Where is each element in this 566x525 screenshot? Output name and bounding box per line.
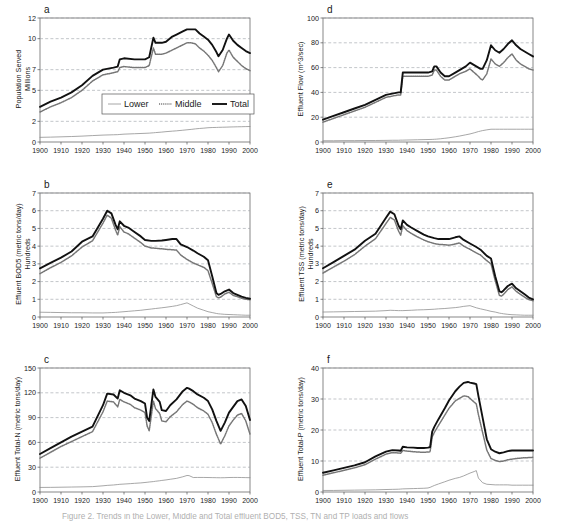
y-axis-label-b: Effluent BOD5 (metric tons/day) xyxy=(14,189,23,319)
svg-text:1900: 1900 xyxy=(32,147,48,154)
svg-text:2: 2 xyxy=(315,277,319,286)
svg-text:0: 0 xyxy=(32,488,36,497)
svg-text:1960: 1960 xyxy=(441,497,457,504)
svg-text:1: 1 xyxy=(32,295,36,304)
svg-text:1980: 1980 xyxy=(483,147,499,154)
svg-text:2: 2 xyxy=(32,277,36,286)
chart-panel-a: aPopulation ServedMillions02571012190019… xyxy=(0,0,283,175)
y-axis-label-e: Effluent TSS (metric tons/day) xyxy=(297,189,306,319)
svg-text:1970: 1970 xyxy=(179,147,195,154)
svg-text:1920: 1920 xyxy=(74,497,90,504)
panel-letter-b: b xyxy=(44,179,50,190)
svg-text:1950: 1950 xyxy=(137,497,153,504)
svg-text:1970: 1970 xyxy=(179,497,195,504)
svg-text:4: 4 xyxy=(315,242,319,251)
svg-text:1900: 1900 xyxy=(315,147,331,154)
svg-text:20: 20 xyxy=(311,426,319,435)
svg-text:1920: 1920 xyxy=(357,322,373,329)
svg-text:80: 80 xyxy=(311,38,319,47)
svg-text:6: 6 xyxy=(315,206,319,215)
svg-text:1970: 1970 xyxy=(179,322,195,329)
svg-text:1900: 1900 xyxy=(32,322,48,329)
svg-text:0: 0 xyxy=(315,313,319,322)
svg-text:0: 0 xyxy=(315,488,319,497)
svg-text:1910: 1910 xyxy=(336,147,352,154)
svg-text:1920: 1920 xyxy=(74,322,90,329)
svg-text:1950: 1950 xyxy=(137,147,153,154)
svg-text:90: 90 xyxy=(28,413,36,422)
svg-text:1970: 1970 xyxy=(462,147,478,154)
svg-text:2000: 2000 xyxy=(525,497,541,504)
svg-text:1960: 1960 xyxy=(158,497,174,504)
plot-area-a: 0257101219001910192019301940195019601970… xyxy=(0,0,283,175)
svg-text:1920: 1920 xyxy=(357,147,373,154)
legend-label-middle: Middle xyxy=(175,99,202,109)
panel-letter-d: d xyxy=(327,4,333,15)
y-axis-label-a: Population Served xyxy=(14,14,23,144)
svg-text:1940: 1940 xyxy=(399,147,415,154)
svg-text:2000: 2000 xyxy=(242,322,258,329)
svg-text:2000: 2000 xyxy=(242,147,258,154)
y-axis-label2-a: Millions xyxy=(23,14,32,144)
svg-text:1940: 1940 xyxy=(116,322,132,329)
svg-text:3: 3 xyxy=(315,259,319,268)
panel-letter-f: f xyxy=(327,354,330,365)
y-axis-label-d: Effluent Flow (m^3/sec) xyxy=(296,14,305,144)
svg-text:40: 40 xyxy=(311,364,319,373)
svg-text:7: 7 xyxy=(32,189,36,198)
svg-text:1930: 1930 xyxy=(378,322,394,329)
svg-text:1900: 1900 xyxy=(32,497,48,504)
svg-text:4: 4 xyxy=(32,242,36,251)
svg-text:1950: 1950 xyxy=(420,147,436,154)
svg-text:5: 5 xyxy=(32,86,36,95)
svg-text:1910: 1910 xyxy=(53,322,69,329)
svg-text:40: 40 xyxy=(311,88,319,97)
svg-text:1930: 1930 xyxy=(378,147,394,154)
plot-area-d: 0204060801001900191019201930194019501960… xyxy=(283,0,566,175)
chart-panel-f: fEffluent Total-P (metric tons/day)01020… xyxy=(283,350,566,525)
svg-text:1900: 1900 xyxy=(315,322,331,329)
plot-area-c: 0306090120150190019101920193019401950196… xyxy=(0,350,283,525)
svg-text:1900: 1900 xyxy=(315,497,331,504)
svg-text:1930: 1930 xyxy=(378,497,394,504)
svg-text:1980: 1980 xyxy=(200,322,216,329)
svg-text:1990: 1990 xyxy=(504,322,520,329)
svg-text:1920: 1920 xyxy=(357,497,373,504)
svg-text:2: 2 xyxy=(32,117,36,126)
svg-text:1980: 1980 xyxy=(483,497,499,504)
panel-letter-a: a xyxy=(44,4,50,15)
svg-text:1980: 1980 xyxy=(200,497,216,504)
svg-text:1980: 1980 xyxy=(200,147,216,154)
panel-letter-e: e xyxy=(327,179,333,190)
svg-text:1950: 1950 xyxy=(137,322,153,329)
svg-text:60: 60 xyxy=(28,438,36,447)
svg-text:1930: 1930 xyxy=(95,497,111,504)
svg-text:1940: 1940 xyxy=(116,147,132,154)
legend: LowerMiddleTotal xyxy=(102,94,254,114)
svg-text:30: 30 xyxy=(28,463,36,472)
svg-text:1920: 1920 xyxy=(74,147,90,154)
svg-text:0: 0 xyxy=(32,313,36,322)
svg-text:1940: 1940 xyxy=(399,497,415,504)
svg-text:1910: 1910 xyxy=(336,497,352,504)
svg-text:6: 6 xyxy=(32,206,36,215)
svg-text:2000: 2000 xyxy=(525,147,541,154)
svg-text:1: 1 xyxy=(315,295,319,304)
legend-label-lower: Lower xyxy=(124,99,149,109)
svg-text:1950: 1950 xyxy=(420,497,436,504)
svg-text:20: 20 xyxy=(311,113,319,122)
svg-text:5: 5 xyxy=(32,224,36,233)
figure-caption-text: Figure 2. Trends in the Lower, Middle an… xyxy=(62,513,408,521)
svg-text:1960: 1960 xyxy=(441,322,457,329)
svg-text:1960: 1960 xyxy=(158,322,174,329)
svg-text:60: 60 xyxy=(311,63,319,72)
chart-panel-e: eEffluent TSS (metric tons/day)Hundreds0… xyxy=(283,175,566,350)
chart-panel-b: bEffluent BOD5 (metric tons/day)Hundreds… xyxy=(0,175,283,350)
svg-text:1980: 1980 xyxy=(483,322,499,329)
svg-text:1950: 1950 xyxy=(420,322,436,329)
y-axis-label2-e: Hundreds xyxy=(306,189,315,319)
svg-text:2000: 2000 xyxy=(242,497,258,504)
plot-area-e: 0123456719001910192019301940195019601970… xyxy=(283,175,566,350)
svg-text:1990: 1990 xyxy=(504,147,520,154)
plot-area-b: 0123456719001910192019301940195019601970… xyxy=(0,175,283,350)
